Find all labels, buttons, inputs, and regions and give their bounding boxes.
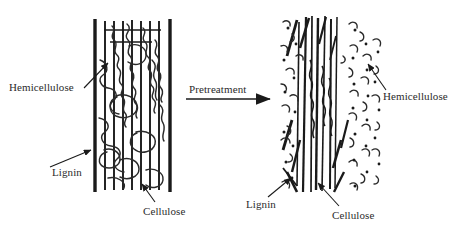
- label-hemicellulose-right: Hemicellulose: [383, 90, 448, 102]
- label-lignin-left: Lignin: [52, 166, 82, 178]
- leader-lignin-right: [268, 178, 291, 197]
- panel-after-pretreatment: [268, 16, 386, 206]
- leader-lignin-left: [50, 150, 91, 167]
- label-cellulose-right: Cellulose: [332, 209, 374, 221]
- label-cellulose-left: Cellulose: [143, 205, 185, 217]
- label-pretreatment: Pretreatment: [189, 83, 246, 95]
- leader-hemicellulose-right: [368, 64, 386, 90]
- figure-canvas: Hemicellulose Lignin Cellulose Pretreatm…: [0, 0, 452, 228]
- label-lignin-right: Lignin: [246, 198, 276, 210]
- label-hemicellulose-left: Hemicellulose: [9, 81, 74, 93]
- biomass-pretreatment-diagram: [0, 0, 452, 228]
